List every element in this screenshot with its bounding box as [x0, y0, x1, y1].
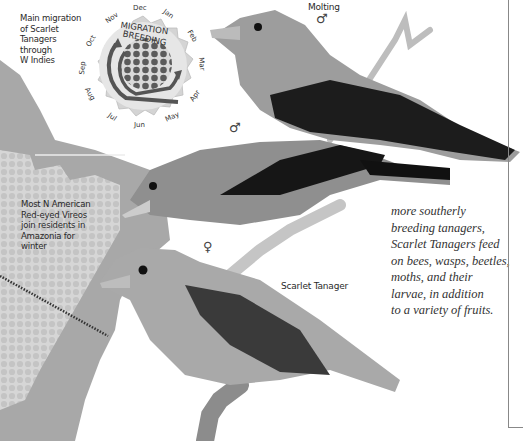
- female-symbol: ♀: [203, 239, 213, 254]
- page-border-vertical: [508, 0, 509, 428]
- branch-bottom: [205, 385, 240, 441]
- male-symbol-breeding: ♂: [229, 120, 241, 135]
- species-label: Scarlet Tanager: [281, 281, 348, 292]
- male-symbol-molting: ♂: [316, 11, 328, 26]
- bird-female: [100, 248, 400, 392]
- page-border-horizontal: [508, 427, 523, 428]
- body-text: more southerly breeding tanagers, Scarle…: [391, 203, 516, 319]
- bird-molting-male: [210, 10, 520, 162]
